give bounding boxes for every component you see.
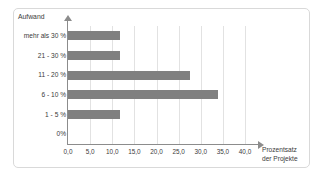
bar (68, 71, 190, 80)
x-tick-label: 10,0 (106, 148, 118, 155)
bar-row (68, 85, 218, 105)
x-axis-line (67, 144, 259, 145)
bar (68, 51, 120, 60)
y-axis-arrow-icon (64, 15, 72, 21)
x-axis-tick-labels: 0,05,010,015,020,025,030,035,040,0 (68, 148, 245, 160)
x-tick-label: 35,0 (217, 148, 229, 155)
x-tick-label: 30,0 (195, 148, 207, 155)
y-tick-label: 6 - 10 % (16, 91, 66, 99)
x-tick-label: 15,0 (128, 148, 140, 155)
x-axis-title: Prozentsatz der Projekte (262, 146, 298, 163)
x-tick-label: 0,0 (64, 148, 73, 155)
y-tick-label: mehr als 30 % (16, 32, 66, 40)
y-tick-label: 0% (16, 130, 66, 138)
gridline (245, 26, 246, 144)
y-tick-label: 1 - 5 % (16, 111, 66, 119)
bar-row (68, 65, 190, 85)
bar-row (68, 26, 120, 46)
y-axis-tick-labels: 0%1 - 5 %6 - 10 %11 - 20 %21 - 30 %mehr … (16, 26, 66, 144)
x-tick-label: 5,0 (86, 148, 95, 155)
bar-row (68, 105, 120, 125)
bar-series (68, 26, 245, 144)
y-tick-label: 21 - 30 % (16, 52, 66, 60)
bar-row (68, 46, 120, 66)
plot-area (68, 26, 245, 144)
x-axis-title-line-1: Prozentsatz (262, 146, 298, 155)
bar (68, 90, 218, 99)
x-tick-label: 40,0 (239, 148, 251, 155)
bar (68, 110, 120, 119)
x-tick-label: 25,0 (172, 148, 184, 155)
y-axis-title: Aufwand (18, 13, 44, 20)
chart-figure: Aufwand 0%1 - 5 %6 - 10 %11 - 20 %21 - 3… (0, 0, 324, 177)
x-tick-label: 20,0 (150, 148, 162, 155)
bar (68, 31, 120, 40)
x-axis-title-line-2: der Projekte (262, 155, 298, 164)
y-tick-label: 11 - 20 % (16, 71, 66, 79)
